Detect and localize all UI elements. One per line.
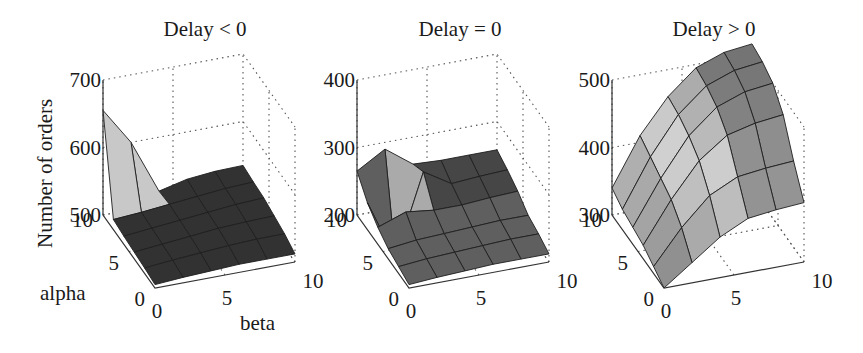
grid-line [357,54,549,127]
panel-title: Delay < 0 [164,17,247,41]
alpha-tick-label: 10 [326,208,347,232]
alpha-axis-label: alpha [40,281,86,305]
panel-title: Delay > 0 [673,17,756,41]
beta-tick-label: 5 [476,286,487,310]
alpha-tick-label: 5 [363,251,374,275]
z-tick-label: 400 [579,136,611,160]
alpha-tick-label: 0 [135,287,146,311]
alpha-tick-label: 0 [389,287,400,311]
panel-delay-positive: Delay > 030040050005100510 [579,17,833,323]
alpha-tick-label: 5 [109,251,120,275]
beta-tick-label: 0 [406,299,417,323]
panel-delay-zero: Delay = 020030040005100510 [324,17,578,323]
alpha-tick-label: 10 [581,208,602,232]
beta-tick-label: 10 [303,269,324,293]
beta-tick-label: 5 [222,286,233,310]
beta-axis-label: beta [240,311,276,335]
z-tick-label: 500 [579,68,611,92]
panel-title: Delay = 0 [419,17,502,41]
alpha-tick-label: 0 [644,287,655,311]
beta-tick-label: 10 [557,269,578,293]
z-tick-label: 400 [324,68,356,92]
z-tick-label: 300 [324,136,356,160]
beta-tick-label: 0 [152,299,163,323]
beta-tick-label: 5 [731,286,742,310]
z-tick-label: 700 [70,68,102,92]
beta-tick-label: 0 [661,299,672,323]
beta-tick-label: 10 [812,269,833,293]
figure: Delay < 050060070005100510 Delay = 02003… [0,0,863,353]
alpha-tick-label: 10 [72,208,93,232]
z-tick-label: 600 [70,136,102,160]
alpha-tick-label: 5 [618,251,629,275]
panel-delay-negative: Delay < 050060070005100510 [70,17,324,323]
grid-line [103,54,295,127]
y-axis-label: Number of orders [33,99,57,248]
